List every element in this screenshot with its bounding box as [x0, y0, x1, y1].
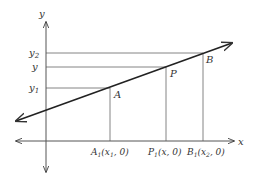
y1-label: y1	[28, 82, 39, 95]
y2-label: y2	[28, 47, 40, 60]
a1-label: A1(x1, 0)	[90, 147, 129, 158]
point-a-label: A	[113, 89, 121, 100]
point-p-label: P	[169, 68, 177, 79]
point-b-label: B	[205, 54, 213, 65]
coordinate-diagram: y x y2 y y1 A P B A1(x1, 0) P1(x, 0) B1(…	[0, 0, 253, 178]
x-axis-label: x	[238, 136, 244, 147]
y-axis-label: y	[38, 8, 45, 19]
line-through-points	[16, 43, 232, 121]
b1-label: B1(x2, 0)	[186, 147, 225, 158]
guide-lines	[46, 53, 203, 141]
y-label: y	[31, 61, 38, 72]
p1-label: P1(x, 0)	[147, 147, 182, 158]
